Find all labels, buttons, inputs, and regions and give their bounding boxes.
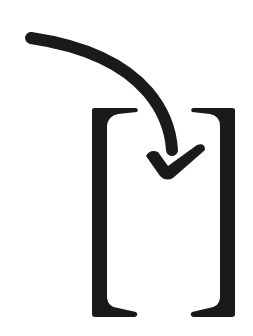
illustration: Curved arrow pointing down into square b… bbox=[0, 0, 253, 336]
insert-into-brackets-icon bbox=[0, 0, 253, 336]
